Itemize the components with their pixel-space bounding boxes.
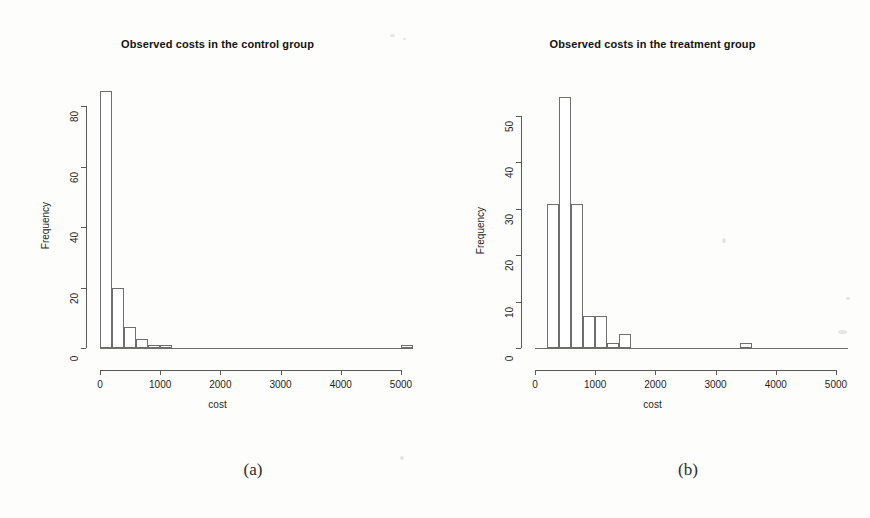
y-tick-mark <box>81 106 86 107</box>
x-tick-label: 2000 <box>195 379 245 390</box>
y-tick-label: 10 <box>504 301 515 323</box>
histogram-bar <box>136 339 148 348</box>
y-tick-label: 20 <box>69 287 80 309</box>
y-tick-mark <box>81 348 86 349</box>
x-tick-mark <box>281 370 282 375</box>
y-tick-mark <box>516 302 521 303</box>
histogram-baseline <box>100 348 413 349</box>
x-tick-label: 4000 <box>751 379 801 390</box>
histogram-bar <box>160 345 172 348</box>
x-axis-title: cost <box>435 399 870 410</box>
panel-a: Observed costs in the control group 0204… <box>0 0 435 518</box>
x-axis-title: cost <box>0 399 435 410</box>
histogram-bar <box>740 343 752 348</box>
x-tick-label: 4000 <box>316 379 366 390</box>
x-tick-mark <box>401 370 402 375</box>
x-axis-line <box>100 370 401 371</box>
scan-speck <box>838 330 847 334</box>
x-tick-mark <box>776 370 777 375</box>
panel-b-plot: 01020304050Frequency01000200030004000500… <box>435 0 870 420</box>
scan-speck <box>390 34 395 37</box>
histogram-bar <box>124 327 136 348</box>
histogram-baseline <box>535 348 848 349</box>
scan-speck <box>846 297 850 300</box>
scan-speck <box>400 456 404 460</box>
figure-page: Observed costs in the control group 0204… <box>0 0 870 518</box>
histogram-bar <box>595 316 607 349</box>
panel-b: Observed costs in the treatment group 01… <box>435 0 870 518</box>
y-tick-label: 60 <box>69 166 80 188</box>
y-tick-label: 50 <box>504 115 515 137</box>
y-axis-title: Frequency <box>40 191 51 261</box>
panel-a-caption: (a) <box>193 460 313 480</box>
panel-a-plot: 020406080Frequency010002000300040005000c… <box>0 0 435 420</box>
x-tick-label: 5000 <box>376 379 426 390</box>
x-tick-label: 3000 <box>691 379 741 390</box>
y-tick-mark <box>81 288 86 289</box>
x-tick-mark <box>595 370 596 375</box>
y-tick-mark <box>516 162 521 163</box>
panel-b-caption: (b) <box>628 460 748 480</box>
histogram-bar <box>571 204 583 348</box>
x-tick-label: 5000 <box>811 379 861 390</box>
histogram-bar <box>148 345 160 348</box>
x-tick-label: 1000 <box>570 379 620 390</box>
x-tick-mark <box>535 370 536 375</box>
histogram-bar <box>401 345 413 348</box>
scan-speck <box>722 238 726 243</box>
y-tick-label: 30 <box>504 208 515 230</box>
x-axis-line <box>535 370 836 371</box>
histogram-bar <box>112 288 124 348</box>
x-tick-mark <box>341 370 342 375</box>
y-tick-label: 40 <box>504 162 515 184</box>
histogram-bar <box>547 204 559 348</box>
y-tick-mark <box>81 167 86 168</box>
y-tick-mark <box>516 348 521 349</box>
x-tick-label: 3000 <box>256 379 306 390</box>
x-tick-label: 2000 <box>630 379 680 390</box>
histogram-bar <box>100 91 112 348</box>
y-tick-label: 40 <box>69 227 80 249</box>
y-axis-title: Frequency <box>475 195 486 265</box>
x-tick-mark <box>655 370 656 375</box>
x-tick-mark <box>836 370 837 375</box>
y-tick-label: 20 <box>504 255 515 277</box>
x-tick-label: 1000 <box>135 379 185 390</box>
histogram-bar <box>559 97 571 348</box>
y-tick-mark <box>516 116 521 117</box>
y-tick-label: 0 <box>69 348 80 370</box>
x-tick-mark <box>220 370 221 375</box>
y-tick-mark <box>516 255 521 256</box>
histogram-bar <box>619 334 631 348</box>
y-tick-label: 0 <box>504 348 515 370</box>
y-tick-label: 80 <box>69 106 80 128</box>
y-tick-mark <box>81 227 86 228</box>
x-tick-label: 0 <box>510 379 560 390</box>
histogram-bar <box>607 343 619 348</box>
y-axis-line <box>521 116 522 348</box>
y-axis-line <box>86 106 87 348</box>
x-tick-mark <box>716 370 717 375</box>
scan-speck <box>403 38 406 40</box>
x-tick-label: 0 <box>75 379 125 390</box>
x-tick-mark <box>160 370 161 375</box>
y-tick-mark <box>516 209 521 210</box>
x-tick-mark <box>100 370 101 375</box>
histogram-bar <box>583 316 595 349</box>
